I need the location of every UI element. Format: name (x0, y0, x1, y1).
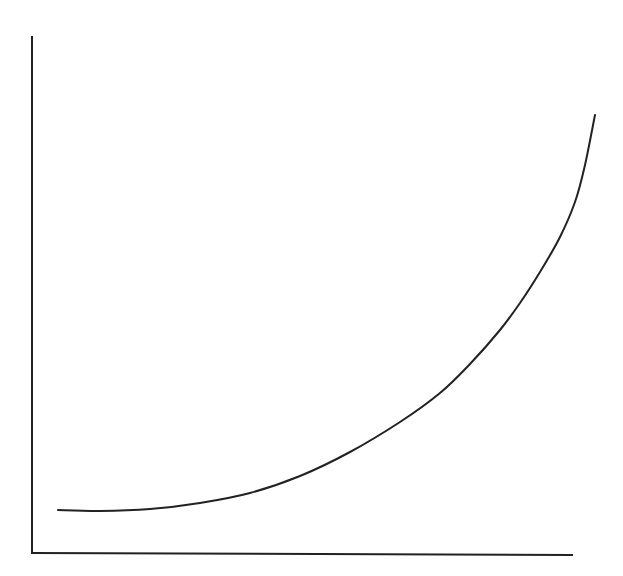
exponential-curve-chart (0, 0, 623, 576)
growth-curve-line (58, 115, 595, 511)
chart-canvas (0, 0, 623, 576)
x-axis (32, 553, 572, 555)
